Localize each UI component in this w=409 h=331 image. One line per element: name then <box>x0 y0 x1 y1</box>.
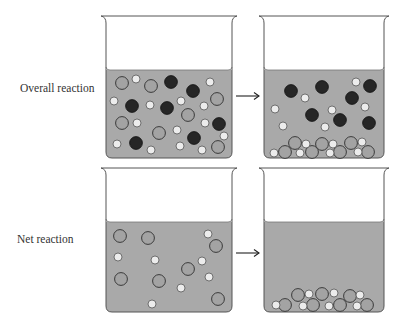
small-ion <box>114 253 122 261</box>
spectator-ion <box>161 102 174 115</box>
small-ion <box>176 142 184 150</box>
small-ion <box>301 94 309 102</box>
small-ion <box>352 78 360 86</box>
small-ion <box>177 284 185 292</box>
small-ion <box>198 257 206 265</box>
small-ion <box>302 140 310 148</box>
beaker-net-after <box>259 168 389 312</box>
small-ion <box>198 146 206 154</box>
large-ion <box>345 137 358 150</box>
large-ion <box>362 146 375 159</box>
large-ion <box>153 275 166 288</box>
beaker-net-before <box>101 168 237 312</box>
large-ion <box>116 77 129 90</box>
small-ion <box>299 302 307 310</box>
large-ion <box>344 290 357 303</box>
small-ion <box>270 149 278 157</box>
large-ion <box>316 138 329 151</box>
large-ion <box>212 141 225 154</box>
spectator-ion <box>334 114 347 127</box>
large-ion <box>114 230 127 243</box>
small-ion <box>177 97 185 105</box>
spectator-ion <box>187 85 200 98</box>
small-ion <box>358 138 366 146</box>
small-ion <box>361 103 369 111</box>
large-ion <box>279 146 292 159</box>
large-ion <box>361 299 374 312</box>
large-ion <box>153 127 166 140</box>
small-ion <box>328 106 336 114</box>
small-ion <box>321 123 329 131</box>
precipitation-reaction-diagram <box>0 0 409 331</box>
small-ion <box>305 290 313 298</box>
large-ion <box>289 137 302 150</box>
spectator-ion <box>130 137 143 150</box>
arrow-overall-icon <box>236 93 259 100</box>
small-ion <box>147 146 155 154</box>
small-ion <box>113 140 121 148</box>
large-ion <box>115 273 128 286</box>
large-ion <box>182 109 195 122</box>
small-ion <box>204 230 212 238</box>
small-ion <box>205 273 213 281</box>
small-ion <box>296 149 304 157</box>
beaker-overall-after <box>259 16 389 158</box>
arrow-net-icon <box>236 250 259 257</box>
small-ion <box>110 97 118 105</box>
large-ion <box>212 293 225 306</box>
small-ion <box>151 256 159 264</box>
spectator-ion <box>165 76 178 89</box>
spectator-ion <box>363 117 376 130</box>
spectator-ion <box>316 81 329 94</box>
large-ion <box>211 93 224 106</box>
small-ion <box>146 101 154 109</box>
large-ion <box>182 263 195 276</box>
large-ion <box>116 117 129 130</box>
small-ion <box>173 126 181 134</box>
small-ion <box>330 289 338 297</box>
spectator-ion <box>346 92 359 105</box>
small-ion <box>272 301 280 309</box>
small-ion <box>132 75 140 83</box>
large-ion <box>334 299 347 312</box>
large-ion <box>316 288 329 301</box>
small-ion <box>329 140 337 148</box>
spectator-ion <box>213 118 226 131</box>
spectator-ion <box>364 80 377 93</box>
small-ion <box>133 119 141 127</box>
large-ion <box>307 299 320 312</box>
small-ion <box>326 149 334 157</box>
small-ion <box>356 291 364 299</box>
large-ion <box>210 240 223 253</box>
spectator-ion <box>188 132 201 145</box>
small-ion <box>220 132 228 140</box>
spectator-ion <box>126 100 139 113</box>
small-ion <box>148 300 156 308</box>
small-ion <box>206 78 214 86</box>
spectator-ion <box>306 109 319 122</box>
large-ion <box>292 289 305 302</box>
small-ion <box>354 148 362 156</box>
small-ion <box>325 302 333 310</box>
large-ion <box>142 232 155 245</box>
beaker-overall-before <box>101 16 237 158</box>
small-ion <box>200 102 208 110</box>
small-ion <box>201 119 209 127</box>
spectator-ion <box>285 85 298 98</box>
small-ion <box>271 105 279 113</box>
small-ion <box>279 122 287 130</box>
small-ion <box>353 302 361 310</box>
large-ion <box>279 299 292 312</box>
large-ion <box>145 80 158 93</box>
